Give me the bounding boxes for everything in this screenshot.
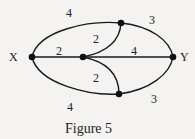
weight-center-bottom: 2 bbox=[93, 71, 99, 85]
node-label-x: X bbox=[9, 50, 18, 64]
weight-x-top: 4 bbox=[66, 6, 72, 20]
weight-bottom-y: 3 bbox=[151, 92, 157, 106]
weight-x-bottom: 4 bbox=[67, 100, 73, 114]
node-bottom bbox=[116, 91, 123, 98]
weight-center-top: 2 bbox=[93, 32, 99, 46]
graph-diagram: X Y 4 3 2 2 4 2 4 3 Figure 5 bbox=[0, 0, 195, 139]
node-center bbox=[80, 54, 87, 61]
node-x bbox=[29, 54, 36, 61]
weight-center-y: 4 bbox=[131, 44, 137, 58]
node-top bbox=[118, 20, 125, 27]
edge-center-top bbox=[83, 23, 121, 57]
figure-caption: Figure 5 bbox=[65, 121, 112, 136]
edge-top-y bbox=[121, 23, 173, 57]
edge-x-top bbox=[32, 22, 121, 57]
weight-x-center: 2 bbox=[56, 44, 62, 58]
edge-bottom-y bbox=[119, 57, 173, 94]
weight-top-y: 3 bbox=[149, 13, 155, 27]
node-label-y: Y bbox=[180, 50, 189, 64]
edge-x-bottom bbox=[32, 57, 119, 94]
node-y bbox=[170, 54, 177, 61]
edge-center-bottom bbox=[83, 57, 119, 94]
